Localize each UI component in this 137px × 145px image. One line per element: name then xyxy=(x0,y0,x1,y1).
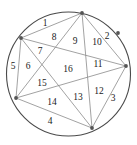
region-label-15: 15 xyxy=(37,79,47,89)
chord-upper-left-to-lower-left xyxy=(16,38,21,98)
region-label-14: 14 xyxy=(47,98,57,108)
region-label-3: 3 xyxy=(111,94,116,104)
vertex-lower-left xyxy=(14,96,18,100)
circle-chord-diagram: 12345678910111213141516 xyxy=(0,0,137,145)
chord-right-to-bottom xyxy=(92,66,126,128)
region-label-8: 8 xyxy=(52,33,57,43)
region-label-6: 6 xyxy=(26,62,31,72)
vertex-right xyxy=(124,64,128,68)
region-label-1: 1 xyxy=(43,19,48,29)
region-label-10: 10 xyxy=(92,38,102,48)
region-label-11: 11 xyxy=(93,60,102,70)
region-label-16: 16 xyxy=(63,65,73,75)
region-label-5: 5 xyxy=(11,62,16,72)
vertex-top xyxy=(80,11,84,15)
region-label-13: 13 xyxy=(73,93,83,103)
vertex-upper-right xyxy=(116,31,120,35)
vertex-upper-left xyxy=(19,36,23,40)
chord-top-to-bottom xyxy=(82,13,92,128)
chord-upper-left-to-bottom xyxy=(21,38,92,128)
region-label-12: 12 xyxy=(94,87,104,97)
region-label-2: 2 xyxy=(105,32,110,42)
chord-top-to-lower-left xyxy=(16,13,82,98)
region-label-7: 7 xyxy=(38,47,43,57)
vertex-bottom xyxy=(90,126,94,130)
region-label-4: 4 xyxy=(48,117,53,127)
region-label-9: 9 xyxy=(73,37,78,47)
